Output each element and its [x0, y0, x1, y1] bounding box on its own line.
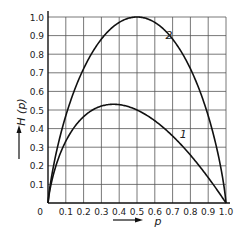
x-tick-label: 0.9 — [201, 207, 216, 217]
x-axis-title: p — [154, 215, 162, 228]
x-tick-labels: 00.10.20.30.40.50.60.70.80.91.0 — [37, 207, 233, 217]
x-tick-label: 0.3 — [94, 207, 108, 217]
y-tick-label: 0.2 — [30, 161, 44, 171]
curve-label-2: 2 — [166, 29, 173, 42]
x-tick-label: 0.1 — [59, 207, 73, 217]
y-tick-label: 0.4 — [30, 124, 45, 134]
x-tick-label: 0.4 — [112, 207, 127, 217]
y-tick-label: 0.6 — [30, 87, 45, 97]
x-tick-label: 0.8 — [183, 207, 198, 217]
curve-labels: 12 — [166, 29, 187, 141]
y-tick-label: 0.7 — [30, 68, 44, 78]
x-tick-label: 0.7 — [165, 207, 179, 217]
entropy-chart: 00.10.20.30.40.50.60.70.80.91.0 0.10.20.… — [0, 0, 242, 238]
y-tick-label: 0.8 — [30, 50, 45, 60]
x-tick-label: 0 — [37, 207, 43, 217]
y-tick-label: 0.3 — [30, 143, 44, 153]
x-tick-label: 1.0 — [219, 207, 234, 217]
x-tick-label: 0.5 — [130, 207, 144, 217]
y-axis-title: H (p) — [15, 98, 28, 125]
y-tick-labels: 0.10.20.30.40.50.60.70.80.91.0 — [30, 13, 45, 190]
y-tick-label: 0.9 — [30, 31, 45, 41]
x-arrow-head-icon — [135, 218, 143, 223]
axes — [48, 11, 230, 203]
y-tick-label: 0.1 — [30, 180, 44, 190]
x-tick-label: 0.2 — [76, 207, 90, 217]
y-tick-label: 0.5 — [30, 106, 44, 116]
y-tick-label: 1.0 — [30, 13, 45, 23]
curve-label-1: 1 — [180, 128, 187, 141]
y-axis-label: H (p) — [15, 98, 28, 159]
